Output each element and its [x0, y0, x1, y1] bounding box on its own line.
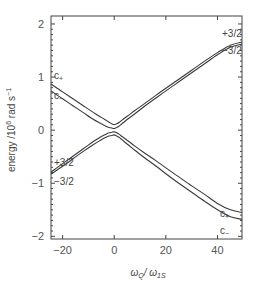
- x-tick-label: −20: [53, 244, 72, 256]
- x-label-omega: ω: [130, 267, 138, 278]
- y-tick-label: 1: [38, 71, 44, 83]
- y-label-mid: rad s: [6, 96, 17, 121]
- y-tick-label: 2: [38, 18, 44, 30]
- annotation-label: c−: [220, 225, 229, 237]
- x-label-sub-1s: 1S: [157, 272, 166, 279]
- x-label-sep: / ω: [143, 267, 158, 278]
- y-tick-label: −1: [31, 177, 44, 189]
- series-line-2: [51, 44, 242, 129]
- series-line-1: [51, 42, 242, 125]
- tick-labels: −2002040−2−1012: [31, 18, 223, 256]
- y-tick-label: −2: [31, 230, 44, 242]
- series-line-4: [51, 135, 242, 220]
- annotation-label: +3/2: [222, 28, 242, 39]
- series-line-3: [51, 132, 242, 213]
- annotation-label: −3/2: [222, 45, 242, 56]
- axis-ticks: [51, 16, 242, 239]
- chart: −2002040−2−1012 c+c−+3/2−3/2+3/2−3/2c+c−…: [0, 0, 256, 289]
- x-tick-label: 20: [160, 244, 172, 256]
- annotation-label: −3/2: [54, 176, 74, 187]
- annotation-label: +3/2: [54, 157, 74, 168]
- x-tick-label: 0: [111, 244, 117, 256]
- plot-frame: [51, 16, 242, 239]
- annotations: c+c−+3/2−3/2+3/2−3/2c+c−: [54, 28, 242, 237]
- annotation-label: c+: [220, 208, 229, 220]
- x-tick-label: 40: [211, 244, 223, 256]
- y-axis-label: energy /106 rad s−1: [5, 88, 17, 172]
- annotation-label: c+: [54, 70, 63, 82]
- y-tick-label: 0: [38, 124, 44, 136]
- y-label-pre: energy /10: [6, 124, 17, 172]
- x-axis-label: ωQ/ ω1S: [130, 267, 166, 280]
- y-label-sup2: −1: [5, 88, 12, 96]
- series-group: [51, 42, 242, 219]
